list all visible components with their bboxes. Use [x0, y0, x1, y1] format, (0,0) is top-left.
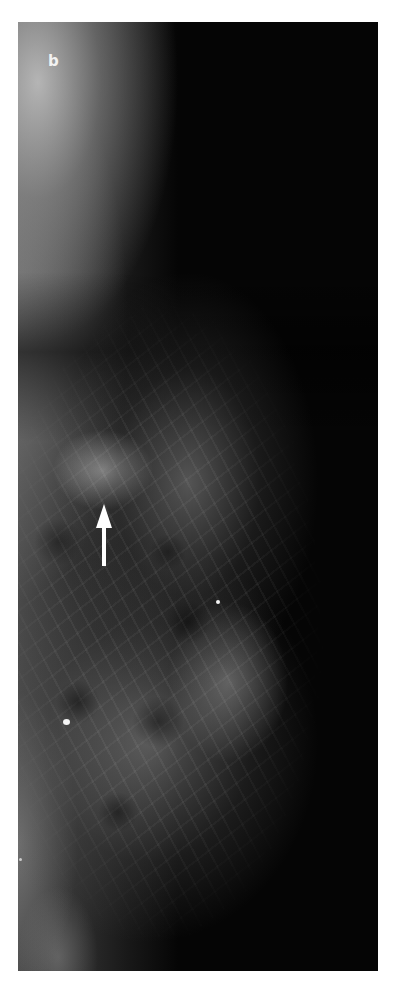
calcification: [19, 858, 22, 861]
arrow-up-icon: [95, 504, 113, 566]
mammogram-image: b: [18, 22, 378, 971]
panel-label: b: [48, 52, 59, 70]
fat-lobules: [18, 22, 378, 971]
calcification: [216, 600, 220, 604]
calcification: [63, 719, 70, 725]
